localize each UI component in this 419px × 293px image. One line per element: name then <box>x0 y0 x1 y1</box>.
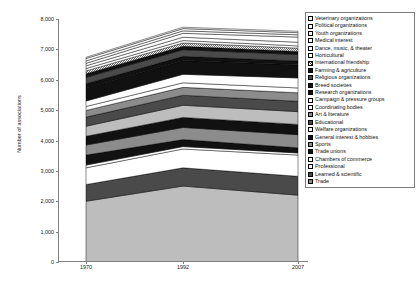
x-tick-mark <box>86 261 87 264</box>
legend-item-label: Campaign & pressure groups <box>315 96 413 103</box>
legend-swatch-icon <box>308 112 313 117</box>
legend-item-label: Sports <box>315 141 413 148</box>
legend-item-label: General interest & hobbies <box>315 134 413 141</box>
legend-item[interactable]: Campaign & pressure groups <box>308 96 413 103</box>
y-tick-label: 4,000 <box>8 138 58 144</box>
legend-item-label: Trade unions <box>315 148 413 155</box>
legend-item-label: Learned & scientific <box>315 171 413 178</box>
legend-swatch-icon <box>308 127 313 132</box>
area-series-group <box>58 19 308 262</box>
y-tick-label: 8,000 <box>8 16 58 22</box>
legend-item[interactable]: Religious organizations <box>308 74 413 81</box>
legend-item-label: Professional <box>315 163 413 170</box>
legend-item[interactable]: Research organizations <box>308 89 413 96</box>
legend-swatch-icon <box>308 142 313 147</box>
legend-swatch-icon <box>308 46 313 51</box>
legend-item[interactable]: Educational <box>308 119 413 126</box>
legend-swatch-icon <box>308 135 313 140</box>
legend-item-label: Political organizations <box>315 22 413 29</box>
y-tick-mark <box>56 110 59 111</box>
y-tick-mark <box>56 19 59 20</box>
legend-item-label: Farming & agriculture <box>315 67 413 74</box>
x-tick-mark <box>298 261 299 264</box>
legend-item[interactable]: Medical interest <box>308 37 413 44</box>
legend-item-label: Youth organizations <box>315 30 413 37</box>
legend-item[interactable]: Veterinary organizations <box>308 15 413 22</box>
legend-item-label: International friendship <box>315 59 413 66</box>
legend-item[interactable]: Professional <box>308 163 413 170</box>
y-tick-label: 1,000 <box>8 229 58 235</box>
x-tick-label: 1992 <box>177 264 189 270</box>
legend-item[interactable]: Breed societies <box>308 82 413 89</box>
legend-item-label: Coordinating bodies <box>315 104 413 111</box>
legend-swatch-icon <box>308 53 313 58</box>
legend-item-label: Art & literature <box>315 111 413 118</box>
plot-area: 01,0002,0003,0004,0005,0006,0007,0008,00… <box>58 19 308 262</box>
legend-item-label: Breed societies <box>315 82 413 89</box>
legend-item[interactable]: Chambers of commerce <box>308 156 413 163</box>
legend-swatch-icon <box>308 179 313 184</box>
legend-swatch-icon <box>308 83 313 88</box>
x-tick-label: 1970 <box>80 264 92 270</box>
legend-swatch-icon <box>308 24 313 29</box>
x-tick-mark <box>183 261 184 264</box>
legend-item[interactable]: Welfare organizations <box>308 126 413 133</box>
legend-item[interactable]: Coordinating bodies <box>308 104 413 111</box>
y-tick-mark <box>56 201 59 202</box>
legend-item-label: Educational <box>315 119 413 126</box>
legend-item-label: Horticultural <box>315 52 413 59</box>
y-tick-label: 0 <box>8 259 58 265</box>
legend-swatch-icon <box>308 157 313 162</box>
legend-swatch-icon <box>308 16 313 21</box>
legend-item-label: Medical interest <box>315 37 413 44</box>
y-tick-label: 7,000 <box>8 46 58 52</box>
legend-swatch-icon <box>308 61 313 66</box>
y-tick-label: 5,000 <box>8 107 58 113</box>
y-tick-mark <box>56 232 59 233</box>
legend-item[interactable]: Youth organizations <box>308 30 413 37</box>
y-tick-mark <box>56 141 59 142</box>
legend-item[interactable]: Political organizations <box>308 22 413 29</box>
legend-swatch-icon <box>308 68 313 73</box>
legend-item-label: Welfare organizations <box>315 126 413 133</box>
y-tick-mark <box>56 262 59 263</box>
legend-swatch-icon <box>308 90 313 95</box>
legend-item-label: Research organizations <box>315 89 413 96</box>
legend-item[interactable]: Sports <box>308 141 413 148</box>
y-tick-label: 2,000 <box>8 198 58 204</box>
legend-item[interactable]: Learned & scientific <box>308 171 413 178</box>
legend-swatch-icon <box>308 31 313 36</box>
legend-item-label: Chambers of commerce <box>315 156 413 163</box>
legend-swatch-icon <box>308 98 313 103</box>
y-tick-label: 6,000 <box>8 77 58 83</box>
legend-swatch-icon <box>308 105 313 110</box>
legend-item[interactable]: General interest & hobbies <box>308 134 413 141</box>
legend-item-label: Religious organizations <box>315 74 413 81</box>
legend-swatch-icon <box>308 172 313 177</box>
legend-item-label: Dance, music, & theater <box>315 45 413 52</box>
y-tick-mark <box>56 49 59 50</box>
legend-item[interactable]: Trade <box>308 178 413 185</box>
legend-item[interactable]: International friendship <box>308 59 413 66</box>
legend-swatch-icon <box>308 164 313 169</box>
stacked-areas <box>58 19 308 262</box>
legend-swatch-icon <box>308 75 313 80</box>
legend-item[interactable]: Trade unions <box>308 148 413 155</box>
legend-item-label: Trade <box>315 178 413 185</box>
legend-item[interactable]: Dance, music, & theater <box>308 45 413 52</box>
y-tick-mark <box>56 171 59 172</box>
y-tick-mark <box>56 80 59 81</box>
legend-swatch-icon <box>308 120 313 125</box>
legend-item[interactable]: Art & literature <box>308 111 413 118</box>
legend-swatch-icon <box>308 38 313 43</box>
y-tick-label: 3,000 <box>8 168 58 174</box>
legend-swatch-icon <box>308 149 313 154</box>
area-series <box>86 186 298 262</box>
chart-figure: Number of associations 01,0002,0003,0004… <box>0 0 419 293</box>
legend-item-label: Veterinary organizations <box>315 15 413 22</box>
legend-item[interactable]: Farming & agriculture <box>308 67 413 74</box>
legend-item[interactable]: Horticultural <box>308 52 413 59</box>
x-tick-label: 2007 <box>292 264 304 270</box>
chart-legend: Veterinary organizationsPolitical organi… <box>305 12 415 188</box>
